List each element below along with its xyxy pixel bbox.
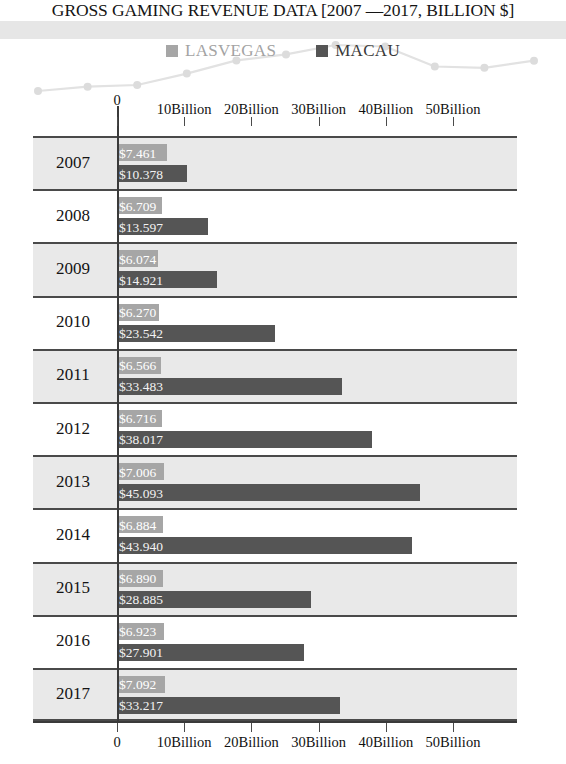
bar-macau[interactable]: $27.901 [117,644,304,661]
bar-value-label: $7.461 [119,145,156,160]
bar-value-label: $33.217 [119,698,163,713]
legend-swatch-icon-macau [316,45,328,57]
row-year-label: 2016 [33,631,113,651]
bar-value-label: $7.006 [119,464,156,479]
chart-legend: LASVEGAS MACAU [0,41,566,61]
axis-tick-mark [251,723,252,732]
row-year-label: 2017 [33,684,113,704]
legend-item-macau[interactable]: MACAU [316,42,400,60]
bar-lasvegas[interactable]: $7.092 [117,676,165,693]
bar-macau[interactable]: $45.093 [117,484,420,501]
bar-lasvegas[interactable]: $6.716 [117,410,162,427]
bar-value-label: $33.483 [119,379,163,394]
bar-value-label: $23.542 [119,326,163,341]
legend-item-lasvegas[interactable]: LASVEGAS [166,42,276,60]
axis-tick-label: 0 [113,92,120,108]
bar-macau[interactable]: $38.017 [117,431,372,448]
row-bars: $6.709$13.597 [117,189,517,242]
bar-value-label: $6.709 [119,198,156,213]
row-bars: $6.716$38.017 [117,402,517,455]
chart-row: 2016$6.923$27.901 [33,615,517,668]
axis-tick-mark [386,117,387,126]
bar-lasvegas[interactable]: $7.006 [117,463,164,480]
bar-lasvegas[interactable]: $6.890 [117,570,163,587]
bar-lasvegas[interactable]: $6.270 [117,304,159,321]
axis-tick-mark [319,117,320,126]
bar-value-label: $6.566 [119,358,156,373]
bar-value-label: $13.597 [119,219,163,234]
bar-value-label: $6.270 [119,305,156,320]
chart-plot-area: 2007$7.461$10.3782008$6.709$13.5972009$6… [33,136,517,721]
bar-lasvegas[interactable]: $6.923 [117,623,164,640]
bar-macau[interactable]: $14.921 [117,271,217,288]
row-year-label: 2010 [33,312,113,332]
row-bars: $6.923$27.901 [117,615,517,668]
legend-label-lasvegas: LASVEGAS [185,42,276,60]
axis-tick-label: 20Billion [224,101,279,117]
bar-macau[interactable]: $10.378 [117,165,187,182]
axis-tick-label: 40Billion [358,101,413,117]
bar-macau[interactable]: $23.542 [117,325,275,342]
sparkline-point [183,70,191,78]
bar-value-label: $6.890 [119,571,156,586]
axis-tick-label: 10Billion [157,101,212,117]
chart-row: 2011$6.566$33.483 [33,349,517,402]
bar-macau[interactable]: $43.940 [117,537,412,554]
bar-lasvegas[interactable]: $7.461 [117,144,167,161]
axis-tick-mark [251,117,252,126]
bar-value-label: $43.940 [119,538,163,553]
bar-lasvegas[interactable]: $6.709 [117,197,162,214]
bar-lasvegas[interactable]: $6.074 [117,250,158,267]
axis-tick-mark [386,723,387,732]
bar-macau[interactable]: $33.483 [117,378,342,395]
chart-row: 2007$7.461$10.378 [33,136,517,189]
sparkline-point [431,63,439,71]
row-bars: $7.006$45.093 [117,455,517,508]
axis-tick-mark [319,723,320,732]
bar-macau[interactable]: $28.885 [117,591,311,608]
axis-tick-label: 30Billion [291,101,346,117]
bar-macau[interactable]: $13.597 [117,218,208,235]
bar-value-label: $38.017 [119,432,163,447]
row-year-label: 2008 [33,206,113,226]
row-bars: $6.270$23.542 [117,296,517,349]
row-year-label: 2013 [33,472,113,492]
bar-value-label: $45.093 [119,485,163,500]
bar-lasvegas[interactable]: $6.566 [117,357,161,374]
row-bars: $7.461$10.378 [117,136,517,189]
axis-tick-label: 50Billion [426,734,481,750]
axis-tick-mark [184,723,185,732]
bar-value-label: $27.901 [119,645,163,660]
axis-tick-mark [453,723,454,732]
row-bars: $6.566$33.483 [117,349,517,402]
chart-row: 2012$6.716$38.017 [33,402,517,455]
axis-tick-label: 20Billion [224,734,279,750]
axis-top: 010Billion20Billion30Billion40Billion50B… [0,92,566,132]
title-underline-band [0,21,566,39]
bar-value-label: $6.923 [119,624,156,639]
bar-value-label: $6.074 [119,251,156,266]
page-title: GROSS GAMING REVENUE DATA [2007 —2017, B… [0,0,566,21]
axis-tick-label: 40Billion [358,734,413,750]
chart-row: 2014$6.884$43.940 [33,508,517,561]
chart-row: 2008$6.709$13.597 [33,189,517,242]
bar-value-label: $28.885 [119,592,163,607]
row-bars: $7.092$33.217 [117,668,517,721]
axis-bottom: 010Billion20Billion30Billion40Billion50B… [0,721,566,764]
legend-label-macau: MACAU [335,42,400,60]
bar-lasvegas[interactable]: $6.884 [117,516,163,533]
chart-row: 2009$6.074$14.921 [33,242,517,295]
bar-value-label: $10.378 [119,166,163,181]
axis-tick-mark [184,117,185,126]
axis-tick-mark [117,117,118,126]
sparkline-point [84,83,92,91]
row-year-label: 2012 [33,419,113,439]
row-bars: $6.884$43.940 [117,508,517,561]
axis-tick-label: 30Billion [291,734,346,750]
chart-row: 2010$6.270$23.542 [33,296,517,349]
chart-row: 2013$7.006$45.093 [33,455,517,508]
axis-tick-label: 0 [113,734,120,750]
chart-row: 2017$7.092$33.217 [33,668,517,721]
bar-macau[interactable]: $33.217 [117,697,340,714]
axis-zero-line [117,106,119,721]
